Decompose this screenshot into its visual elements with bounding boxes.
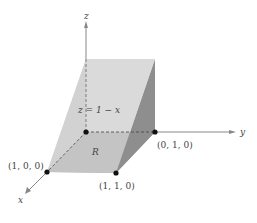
surface-equation-label: z = 1 − x	[77, 105, 120, 115]
point-110-dot	[113, 170, 118, 175]
y-axis-label: y	[239, 127, 246, 137]
x-axis-label: x	[18, 195, 23, 205]
x-axis-arrow-icon	[25, 187, 31, 194]
z-axis-label: z	[83, 11, 89, 21]
point-110-label: (1, 1, 0)	[99, 181, 135, 191]
point-010-dot	[152, 129, 157, 134]
y-axis-arrow-icon	[229, 130, 236, 134]
point-100-dot	[44, 169, 49, 174]
x-axis	[28, 172, 47, 191]
region-r-label: R	[91, 147, 99, 157]
point-100-label: (1, 0, 0)	[8, 161, 44, 171]
origin-point	[83, 129, 88, 134]
point-010-label: (0, 1, 0)	[157, 140, 193, 150]
wedge-diagram: z y x z = 1 − x R (0, 1, 0) (1, 0, 0) (1…	[0, 0, 257, 223]
z-axis-arrow-icon	[84, 21, 88, 28]
